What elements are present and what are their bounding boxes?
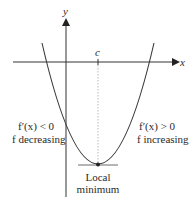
right-behavior-label: f increasing — [137, 133, 189, 145]
c-label: c — [95, 46, 100, 58]
local-minimum-diagram: y x c f′(x) < 0 f decreasing f′(x) > 0 f… — [0, 0, 193, 207]
local-label: Local — [85, 171, 110, 183]
left-behavior-label: f decreasing — [12, 133, 66, 145]
right-derivative-label: f′(x) > 0 — [139, 120, 176, 133]
minimum-point — [96, 163, 100, 167]
left-derivative-label: f′(x) < 0 — [18, 120, 55, 133]
y-axis-label: y — [62, 5, 68, 17]
minimum-label: minimum — [77, 183, 120, 195]
x-axis-label: x — [179, 56, 185, 68]
